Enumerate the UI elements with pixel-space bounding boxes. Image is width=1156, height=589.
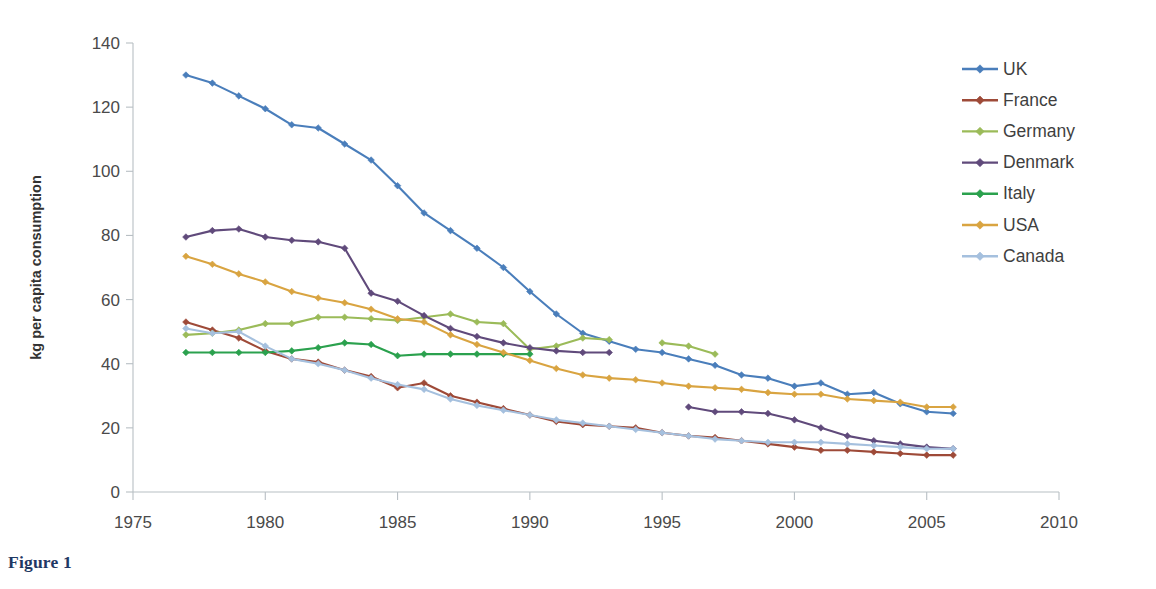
- line-chart: 020406080100120140 197519801985199019952…: [0, 0, 1156, 545]
- data-point-marker: [871, 449, 878, 456]
- series-italy: [183, 340, 534, 359]
- data-point-marker: [474, 351, 481, 358]
- data-point-marker: [500, 340, 507, 347]
- data-point-marker: [950, 410, 957, 417]
- data-point-marker: [950, 452, 957, 459]
- data-point-marker: [527, 357, 534, 364]
- data-point-marker: [209, 349, 216, 356]
- data-point-marker: [950, 445, 957, 452]
- y-tick-label: 20: [101, 419, 120, 438]
- data-point-marker: [262, 279, 269, 286]
- data-point-marker: [923, 452, 930, 459]
- data-point-marker: [818, 380, 825, 387]
- y-tick-label: 0: [111, 483, 120, 502]
- data-point-marker: [262, 320, 269, 327]
- data-point-marker: [341, 314, 348, 321]
- x-tick-label: 2010: [1040, 513, 1078, 532]
- legend-item-uk[interactable]: UK: [962, 59, 1028, 79]
- legend-swatch-marker: [976, 65, 984, 73]
- data-point-marker: [288, 320, 295, 327]
- data-point-marker: [659, 340, 666, 347]
- data-point-marker: [712, 362, 719, 369]
- data-point-marker: [527, 351, 534, 358]
- data-point-marker: [183, 253, 190, 260]
- data-point-marker: [236, 349, 243, 356]
- data-point-marker: [791, 417, 798, 424]
- series-line-uk: [186, 75, 953, 413]
- data-point-marker: [288, 356, 295, 363]
- data-point-marker: [341, 299, 348, 306]
- data-point-marker: [447, 325, 454, 332]
- data-point-marker: [818, 425, 825, 432]
- data-point-marker: [421, 351, 428, 358]
- data-point-marker: [368, 316, 375, 323]
- legend-label-text: USA: [1003, 215, 1039, 235]
- data-point-marker: [897, 450, 904, 457]
- data-point-marker: [685, 383, 692, 390]
- data-point-marker: [606, 375, 613, 382]
- legend-label-text: France: [1003, 90, 1057, 110]
- data-point-marker: [183, 349, 190, 356]
- data-point-marker: [659, 380, 666, 387]
- data-point-marker: [209, 261, 216, 268]
- series-line-denmark: [186, 229, 609, 352]
- legend-item-canada[interactable]: Canada: [962, 246, 1065, 266]
- series-usa: [183, 253, 957, 410]
- data-point-marker: [685, 433, 692, 440]
- series-france: [183, 319, 957, 459]
- data-point-marker: [447, 351, 454, 358]
- data-point-marker: [183, 325, 190, 332]
- data-point-marker: [236, 93, 243, 100]
- legend-item-italy[interactable]: Italy: [962, 183, 1035, 203]
- data-point-marker: [183, 72, 190, 79]
- data-point-marker: [553, 365, 560, 372]
- data-point-marker: [315, 239, 322, 246]
- data-point-marker: [844, 447, 851, 454]
- data-point-marker: [791, 439, 798, 446]
- y-tick-label: 80: [101, 226, 120, 245]
- data-point-marker: [579, 335, 586, 342]
- data-point-marker: [553, 348, 560, 355]
- data-point-marker: [447, 311, 454, 318]
- y-tick-label: 120: [92, 98, 120, 117]
- x-tick-label: 2000: [776, 513, 814, 532]
- x-tick-label: 2005: [908, 513, 946, 532]
- data-point-marker: [818, 439, 825, 446]
- legend-item-usa[interactable]: USA: [962, 215, 1039, 235]
- legend-swatch-marker: [976, 190, 984, 198]
- data-point-marker: [421, 386, 428, 393]
- legend-item-france[interactable]: France: [962, 90, 1057, 110]
- data-point-marker: [738, 372, 745, 379]
- data-point-marker: [818, 447, 825, 454]
- data-point-marker: [579, 349, 586, 356]
- data-point-marker: [765, 389, 772, 396]
- data-point-marker: [315, 295, 322, 302]
- data-point-marker: [685, 404, 692, 411]
- series-uk: [183, 72, 957, 417]
- data-point-marker: [341, 340, 348, 347]
- data-point-marker: [527, 412, 534, 419]
- data-point-marker: [288, 237, 295, 244]
- data-point-marker: [632, 376, 639, 383]
- data-point-marker: [288, 348, 295, 355]
- x-tick-label: 1995: [643, 513, 681, 532]
- x-tick-label: 1985: [379, 513, 417, 532]
- data-point-marker: [765, 410, 772, 417]
- data-point-marker: [685, 356, 692, 363]
- data-point-marker: [236, 226, 243, 233]
- series-line-usa: [186, 256, 953, 407]
- y-tick-label: 140: [92, 34, 120, 53]
- legend-item-denmark[interactable]: Denmark: [962, 152, 1074, 172]
- y-tick-label: 100: [92, 162, 120, 181]
- legend-label-text: UK: [1003, 59, 1028, 79]
- legend-item-germany[interactable]: Germany: [962, 121, 1075, 141]
- figure-container: 020406080100120140 197519801985199019952…: [0, 0, 1156, 589]
- data-point-marker: [685, 343, 692, 350]
- y-axis-title-text: kg per capita consumption: [28, 175, 44, 360]
- data-point-marker: [738, 437, 745, 444]
- data-point-marker: [871, 442, 878, 449]
- data-point-marker: [474, 333, 481, 340]
- data-point-marker: [341, 367, 348, 374]
- data-point-marker: [791, 383, 798, 390]
- legend-swatch-marker: [976, 127, 984, 135]
